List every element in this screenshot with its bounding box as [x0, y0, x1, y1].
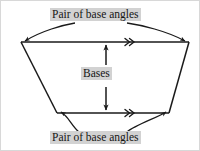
top-base-angles-label: Pair of base angles	[50, 8, 141, 21]
top-left-angle-pointer	[25, 23, 75, 41]
bases-label: Bases	[81, 67, 112, 80]
geometry-diagram: Pair of base angles Bases Pair of base a…	[0, 0, 200, 151]
right-leg-line	[169, 42, 189, 113]
left-leg-line	[21, 42, 57, 113]
bottom-base-angles-label: Pair of base angles	[50, 131, 141, 144]
bottom-left-angle-pointer	[61, 112, 79, 132]
bottom-right-angle-pointer	[127, 112, 166, 132]
top-right-angle-pointer	[127, 23, 185, 41]
